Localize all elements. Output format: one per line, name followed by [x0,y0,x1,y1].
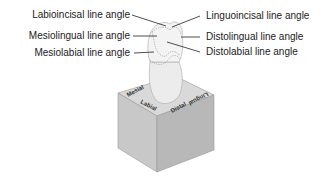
label-linguoincisal-line-angle: Linguoincisal line angle [206,10,309,22]
label-mesiolabial-line-angle: Mesiolabial line angle [34,47,130,59]
tooth-crown [148,22,183,62]
tooth-root [149,62,182,104]
label-distolingual-line-angle: Distolingual line angle [206,31,303,43]
leader-linguoincisal [172,16,200,27]
leader-labioincisal [132,15,166,26]
tooth-diagram: Mesial Lingual Labial Distal [0,0,328,180]
label-mesiolingual-line-angle: Mesiolingual line angle [29,30,130,42]
label-labioincisal-line-angle: Labioincisal line angle [32,9,130,21]
label-distolabial-line-angle: Distolabial line angle [206,46,298,58]
